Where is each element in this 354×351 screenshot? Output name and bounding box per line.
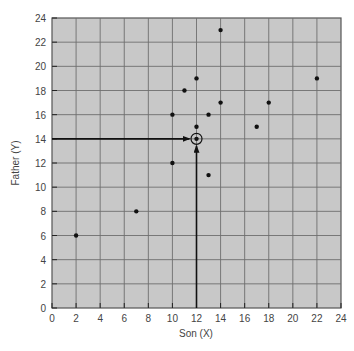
data-point xyxy=(218,100,222,104)
y-tick-label: 4 xyxy=(40,255,46,266)
x-tick-label: 6 xyxy=(121,313,127,324)
data-point xyxy=(218,28,222,32)
x-tick-label: 20 xyxy=(287,313,299,324)
y-tick-label: 2 xyxy=(40,279,46,290)
y-tick-label: 22 xyxy=(35,37,47,48)
data-point xyxy=(194,137,198,141)
y-tick-label: 12 xyxy=(35,158,47,169)
y-tick-label: 6 xyxy=(40,231,46,242)
y-tick-label: 8 xyxy=(40,206,46,217)
y-tick-label: 18 xyxy=(35,86,47,97)
data-point xyxy=(182,88,186,92)
x-tick-label: 10 xyxy=(167,313,179,324)
x-axis-label: Son (X) xyxy=(179,328,213,339)
data-point xyxy=(74,233,78,237)
y-tick-label: 14 xyxy=(35,134,47,145)
scatter-chart: 024681012141618202224 024681012141618202… xyxy=(0,0,354,351)
x-tick-label: 0 xyxy=(49,313,55,324)
data-point xyxy=(194,125,198,129)
x-tick-label: 16 xyxy=(239,313,251,324)
x-tick-label: 4 xyxy=(97,313,103,324)
x-tick-label: 8 xyxy=(146,313,152,324)
data-point xyxy=(206,112,210,116)
y-tick-label: 10 xyxy=(35,182,47,193)
y-tick-label: 24 xyxy=(35,13,47,24)
x-tick-label: 2 xyxy=(73,313,79,324)
x-tick-label: 14 xyxy=(215,313,227,324)
x-tick-label: 12 xyxy=(191,313,203,324)
data-point xyxy=(170,161,174,165)
y-axis-label: Father (Y) xyxy=(10,140,21,185)
data-point xyxy=(315,76,319,80)
y-tick-label: 16 xyxy=(35,110,47,121)
data-point xyxy=(134,209,138,213)
x-tick-label: 24 xyxy=(335,313,347,324)
y-tick-label: 20 xyxy=(35,61,47,72)
y-tick-label: 0 xyxy=(40,303,46,314)
data-point xyxy=(206,173,210,177)
data-point xyxy=(267,100,271,104)
x-tick-label: 22 xyxy=(311,313,323,324)
x-tick-label: 18 xyxy=(263,313,275,324)
data-point xyxy=(194,76,198,80)
data-point xyxy=(170,112,174,116)
data-point xyxy=(255,125,259,129)
